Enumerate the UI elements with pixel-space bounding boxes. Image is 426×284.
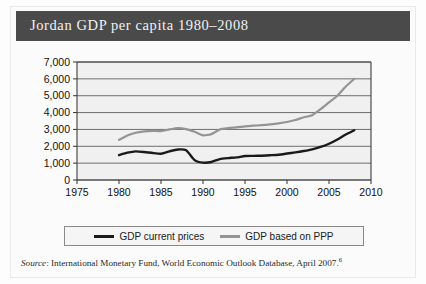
svg-text:1975: 1975	[65, 186, 89, 198]
source-footnote: 6	[339, 256, 342, 263]
svg-text:6,000: 6,000	[44, 73, 70, 85]
svg-text:7,000: 7,000	[44, 56, 70, 68]
source-label: Source	[21, 258, 46, 268]
line-chart-svg: 01,0002,0003,0004,0005,0006,0007,000 197…	[16, 45, 410, 245]
svg-text:5,000: 5,000	[44, 89, 70, 101]
page-title: Jordan GDP per capita 1980–2008	[30, 17, 249, 34]
y-axis-ticks: 01,0002,0003,0004,0005,0006,0007,000	[44, 56, 77, 186]
source-note: Source: International Monetary Fund, Wor…	[21, 256, 411, 268]
legend-label-ppp: GDP based on PPP	[245, 231, 333, 242]
plot-background	[77, 62, 371, 180]
legend-item-gdp-current-prices: GDP current prices	[94, 231, 204, 242]
legend-swatch-current-prices	[94, 235, 114, 238]
legend-swatch-ppp	[220, 235, 240, 238]
svg-text:3,000: 3,000	[44, 123, 70, 135]
svg-text:2,000: 2,000	[44, 140, 70, 152]
source-text: : International Monetary Fund, World Eco…	[46, 258, 339, 268]
svg-text:2005: 2005	[317, 186, 341, 198]
legend-label-current-prices: GDP current prices	[119, 231, 204, 242]
chart-plot-area: 01,0002,0003,0004,0005,0006,0007,000 197…	[16, 45, 410, 245]
x-axis-ticks: 19751980198519901995200020052010	[65, 180, 383, 198]
figure-container: Jordan GDP per capita 1980–2008 01,0002,…	[0, 0, 426, 284]
title-band: Jordan GDP per capita 1980–2008	[16, 11, 410, 41]
svg-text:0: 0	[64, 174, 70, 186]
svg-text:1995: 1995	[233, 186, 257, 198]
svg-text:1985: 1985	[149, 186, 173, 198]
svg-text:2000: 2000	[275, 186, 299, 198]
svg-text:1980: 1980	[107, 186, 131, 198]
svg-text:4,000: 4,000	[44, 106, 70, 118]
svg-text:2010: 2010	[359, 186, 383, 198]
svg-text:1990: 1990	[191, 186, 215, 198]
svg-text:1,000: 1,000	[44, 157, 70, 169]
legend-item-gdp-ppp: GDP based on PPP	[220, 231, 333, 242]
chart-legend: GDP current prices GDP based on PPP	[64, 226, 364, 246]
